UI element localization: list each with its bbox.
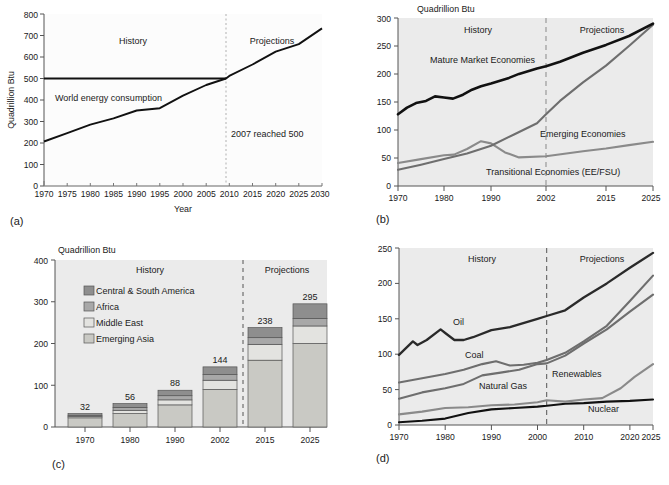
- panel-c-xtick-1980: 1980: [120, 435, 139, 445]
- panel-a-xtick-1970: 1970: [34, 189, 53, 199]
- panel-c-emerging-regions: 0 100 200 300 400 1970 1980 1990 2002 20…: [0, 240, 340, 485]
- panel-d-coal-label: Coal: [465, 350, 484, 360]
- panel-b-x-ticks: 1970 1980 1990 2002 2015 2025: [388, 186, 660, 203]
- panel-b-history-label: History: [464, 25, 493, 35]
- panel-b-ytick-50: 50: [381, 153, 391, 163]
- panel-a-ytick-500: 500: [24, 74, 39, 84]
- panel-c-xtick-1970: 1970: [75, 435, 94, 445]
- panel-b-ytick-200: 200: [377, 69, 392, 79]
- panel-a-xtick-1980: 1980: [81, 189, 100, 199]
- panel-a-series-label: World energy consumption: [55, 93, 162, 103]
- panel-d-history-label: History: [468, 254, 497, 264]
- panel-a-xtick-2000: 2000: [173, 189, 192, 199]
- panel-c-title: Quadrillion Btu: [58, 245, 116, 255]
- panel-d-xtick-1990: 1990: [482, 432, 501, 442]
- panel-d-xtick-1970: 1970: [389, 432, 408, 442]
- panel-a-annotation-2007: 2007 reached 500: [231, 129, 304, 139]
- panel-a-xtick-2025: 2025: [289, 189, 308, 199]
- panel-d-plot-background: [399, 248, 653, 425]
- panel-c-legend-swatch-emerging-asia: [84, 334, 94, 343]
- panel-b-mature-label: Mature Market Economies: [430, 55, 536, 65]
- panel-d-xtick-2020: 2020: [620, 432, 639, 442]
- panel-d-ytick-150: 150: [378, 314, 393, 324]
- panel-c-legend-swatch-africa: [84, 302, 94, 311]
- panel-a-world-energy-consumption: 0 100 200 300 400 500 600 700 800: [0, 0, 340, 240]
- panel-c-ytick-400: 400: [34, 256, 49, 266]
- panel-b-ytick-150: 150: [377, 97, 392, 107]
- panel-a-projections-label: Projections: [250, 36, 295, 46]
- panel-d-natural-gas-label: Natural Gas: [479, 381, 528, 391]
- panel-d-x-ticks: 1970 1980 1990 2000 2010 2020 2025: [389, 425, 660, 442]
- panel-a-xtick-1995: 1995: [150, 189, 169, 199]
- panel-a-xtick-2015: 2015: [243, 189, 262, 199]
- panel-a-history-label: History: [119, 36, 148, 46]
- panel-c-legend-label-central-south-america: Central & South America: [96, 286, 195, 296]
- panel-c-total-1970: 32: [80, 402, 90, 412]
- panel-b-ytick-250: 250: [377, 41, 392, 51]
- panel-b-chart: 0 50 100 150 200 250 300 1970 1980 1990 …: [340, 0, 669, 240]
- panel-d-ytick-100: 100: [378, 349, 393, 359]
- panel-b-ytick-300: 300: [377, 14, 392, 24]
- panel-d-nuclear-label: Nuclear: [588, 404, 619, 414]
- panel-d-xtick-2025: 2025: [641, 432, 660, 442]
- panel-c-chart: 0 100 200 300 400 1970 1980 1990 2002 20…: [0, 240, 340, 485]
- panel-c-legend-label-africa: Africa: [96, 302, 119, 312]
- panel-a-y-axis-label: Quadrillion Btu: [6, 71, 16, 129]
- panel-a-xtick-2020: 2020: [266, 189, 285, 199]
- panel-b-label: (b): [376, 213, 389, 225]
- panel-c-bar-2025: [293, 304, 327, 427]
- panel-c-projections-label: Projections: [265, 265, 310, 275]
- panel-c-x-ticks: 1970 1980 1990 2002 2015 2025: [75, 427, 319, 445]
- panel-a-chart: 0 100 200 300 400 500 600 700 800: [0, 0, 340, 240]
- panel-c-legend-swatch-central-south-america: [84, 286, 94, 295]
- panel-c-ytick-200: 200: [34, 339, 49, 349]
- panel-c-bar-1990: [158, 390, 192, 427]
- panel-a-x-axis-label: Year: [174, 204, 192, 214]
- panel-d-ytick-200: 200: [378, 278, 393, 288]
- panel-b-projections-label: Projections: [580, 25, 625, 35]
- panel-c-total-2002: 144: [212, 355, 227, 365]
- panel-b-ytick-100: 100: [377, 125, 392, 135]
- panel-b-y-ticks: 0 50 100 150 200 250 300: [377, 14, 398, 191]
- panel-b-transitional-label: Transitional Economies (EE/FSU): [486, 167, 620, 177]
- panel-d-projections-label: Projections: [580, 254, 625, 264]
- panel-c-xtick-1990: 1990: [165, 435, 184, 445]
- panel-a-ytick-700: 700: [24, 31, 39, 41]
- panel-d-ytick-250: 250: [378, 244, 393, 254]
- panel-a-xtick-1975: 1975: [58, 189, 77, 199]
- panel-b-emerging-label: Emerging Economies: [540, 129, 626, 139]
- panel-c-total-2015: 238: [257, 316, 272, 326]
- panel-d-oil-label: Oil: [453, 317, 464, 327]
- panel-c-bar-1970: [68, 414, 102, 427]
- panel-b-xtick-1990: 1990: [481, 193, 500, 203]
- panel-c-legend-label-middle-east: Middle East: [96, 318, 144, 328]
- panel-c-legend-swatch-middle-east: [84, 318, 94, 327]
- panel-a-ytick-300: 300: [24, 117, 39, 127]
- panel-b-economies: 0 50 100 150 200 250 300 1970 1980 1990 …: [340, 0, 669, 240]
- panel-d-ytick-50: 50: [382, 385, 392, 395]
- panel-d-energy-sources: 0 50 100 150 200 250 1970 1980 1990 2000…: [340, 240, 669, 485]
- panel-a-ytick-200: 200: [24, 138, 39, 148]
- panel-a-ytick-600: 600: [24, 52, 39, 62]
- panel-b-xtick-2025: 2025: [641, 193, 660, 203]
- panel-c-bar-1980: [113, 404, 147, 427]
- panel-b-xtick-1970: 1970: [388, 193, 407, 203]
- panel-a-xtick-2005: 2005: [197, 189, 216, 199]
- panel-d-xtick-2010: 2010: [574, 432, 593, 442]
- panel-d-renewables-label: Renewables: [552, 369, 602, 379]
- panel-c-ytick-0: 0: [43, 422, 48, 432]
- panel-d-xtick-1980: 1980: [436, 432, 455, 442]
- panel-c-y-ticks: 0 100 200 300 400: [34, 256, 55, 432]
- panel-a-xtick-2030: 2030: [310, 189, 329, 199]
- panel-c-ytick-100: 100: [34, 381, 49, 391]
- panel-c-xtick-2025: 2025: [300, 435, 319, 445]
- panel-d-label: (d): [376, 452, 389, 464]
- panel-a-ytick-100: 100: [24, 160, 39, 170]
- panel-b-xtick-2002: 2002: [536, 193, 555, 203]
- panel-a-xtick-1990: 1990: [127, 189, 146, 199]
- panel-b-xtick-1980: 1980: [434, 193, 453, 203]
- panel-c-xtick-2002: 2002: [210, 435, 229, 445]
- panel-a-y-ticks: 0 100 200 300 400 500 600 700 800: [24, 10, 44, 191]
- panel-c-total-1990: 88: [170, 378, 180, 388]
- panel-d-chart: 0 50 100 150 200 250 1970 1980 1990 2000…: [340, 240, 669, 485]
